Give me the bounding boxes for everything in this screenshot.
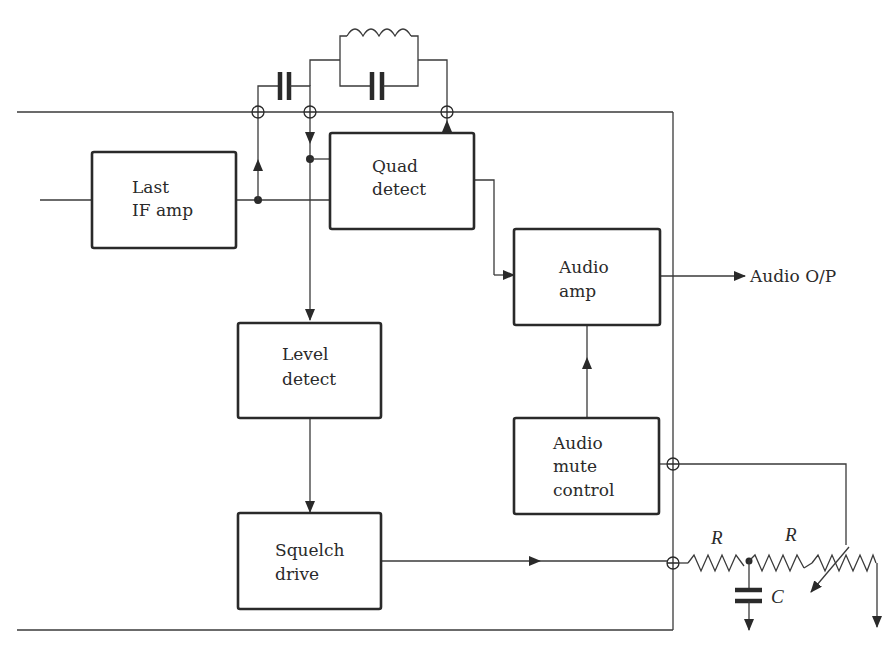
svg-text:detect: detect xyxy=(372,179,426,199)
svg-text:mute: mute xyxy=(553,456,597,476)
svg-text:drive: drive xyxy=(275,564,319,584)
resistor-1-label: R xyxy=(710,527,723,548)
external-tank-circuit xyxy=(258,29,447,112)
svg-text:control: control xyxy=(553,480,614,500)
svg-text:amp: amp xyxy=(559,281,596,301)
block-squelch-drive: Squelch drive xyxy=(238,513,381,609)
block-audio-amp: Audio amp xyxy=(514,229,660,325)
block-last-if-amp: Last IF amp xyxy=(92,152,236,248)
svg-text:Squelch: Squelch xyxy=(275,540,344,560)
svg-text:Audio: Audio xyxy=(558,257,609,277)
inductor-icon xyxy=(347,29,411,36)
svg-text:Audio: Audio xyxy=(552,433,603,453)
block-level-detect: Level detect xyxy=(238,323,381,418)
svg-text:Quad: Quad xyxy=(372,156,418,176)
fm-squelch-block-diagram: Last IF amp Quad detect Audio amp Level … xyxy=(0,0,894,645)
resistor-2-label: R xyxy=(784,524,797,545)
block-quad-detect: Quad detect xyxy=(330,133,474,229)
resistor-icon xyxy=(688,555,744,571)
capacitor-label: C xyxy=(771,586,784,607)
svg-text:Level: Level xyxy=(282,344,328,364)
svg-text:detect: detect xyxy=(282,369,336,389)
potentiometer-icon xyxy=(812,555,876,571)
resistor-icon xyxy=(749,555,804,571)
svg-text:Last: Last xyxy=(132,177,169,197)
block-audio-mute-control: Audio mute control xyxy=(514,418,659,514)
svg-text:IF amp: IF amp xyxy=(132,200,193,220)
audio-output-label: Audio O/P xyxy=(749,266,836,286)
